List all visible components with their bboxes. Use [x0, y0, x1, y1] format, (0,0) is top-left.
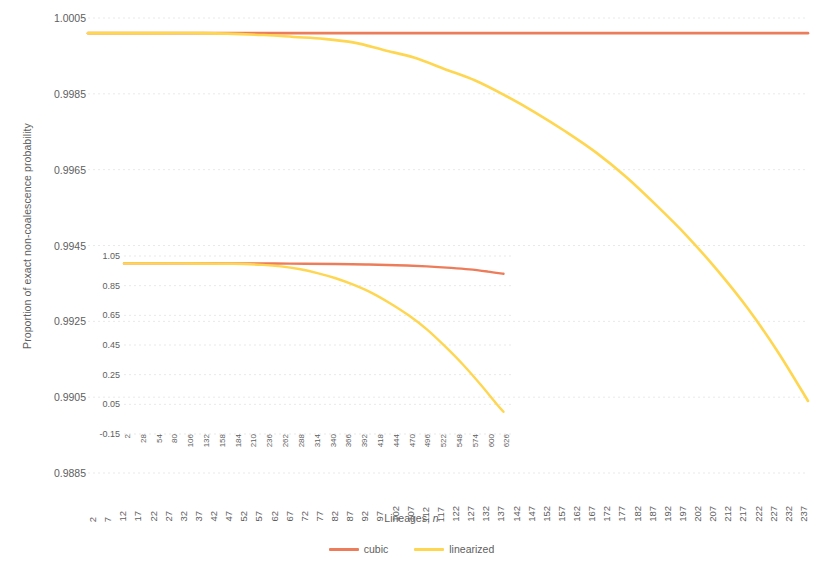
y-axis-tick-label: 0.9905 [30, 391, 86, 403]
inset-x-axis-tick-label: 392 [361, 434, 369, 447]
inset-x-axis-tick-label: 106 [187, 434, 195, 447]
inset-x-axis-tick-label: 262 [282, 434, 290, 447]
inset-y-axis-tick-label: 0.85 [86, 281, 120, 291]
inset-x-axis-tick-label: 548 [456, 434, 464, 447]
inset-y-axis-tick-label: 1.05 [86, 251, 120, 261]
legend-swatch-icon [329, 548, 359, 551]
y-axis-tick-label: 0.9965 [30, 164, 86, 176]
inset-x-axis-tick-label: 28 [140, 434, 148, 443]
inset-x-axis-tick-label: 340 [330, 434, 338, 447]
inset-x-axis-tick-label: 132 [203, 434, 211, 447]
inset-x-axis-tick-label: 80 [171, 434, 179, 443]
inset-y-axis-tick-label: 0.45 [86, 340, 120, 350]
inset-x-axis-tick-label: 366 [345, 434, 353, 447]
inset-y-axis-tick-label: 0.25 [86, 370, 120, 380]
y-axis-tick-label: 0.9885 [30, 467, 86, 479]
inset-x-axis-tick-label: 236 [266, 434, 274, 447]
inset-x-axis-tick-labels: 2285480106132158184210236262288314340366… [124, 434, 512, 467]
inset-x-axis-tick-label: 522 [440, 434, 448, 447]
inset-x-axis-tick-label: 600 [488, 434, 496, 447]
inset-x-axis-tick-label: 496 [424, 434, 432, 447]
inset-x-axis-tick-label: 184 [235, 434, 243, 447]
legend-label: linearized [449, 543, 494, 555]
inset-chart: 1.050.850.650.450.250.05-0.15 2285480106… [86, 252, 514, 467]
chart-legend: cubiclinearized [0, 543, 823, 555]
legend-label: cubic [364, 543, 389, 555]
inset-x-axis-tick-label: 314 [314, 434, 322, 447]
y-axis-tick-label: 0.9945 [30, 240, 86, 252]
inset-y-axis-tick-label: 0.05 [86, 399, 120, 409]
chart-figure: Proportion of exact non-coalescence prob… [0, 0, 823, 569]
legend-item-linearized[interactable]: linearized [414, 543, 494, 555]
legend-item-cubic[interactable]: cubic [329, 543, 389, 555]
inset-x-axis-tick-label: 444 [393, 434, 401, 447]
inset-x-axis-tick-label: 2 [124, 434, 132, 438]
inset-x-axis-tick-label: 418 [377, 434, 385, 447]
inset-x-axis-tick-label: 288 [298, 434, 306, 447]
y-axis-tick-labels: 1.00050.99850.99650.99450.99250.99050.98… [30, 0, 86, 569]
inset-x-axis-tick-label: 626 [503, 434, 511, 447]
inset-x-axis-tick-label: 574 [472, 434, 480, 447]
y-axis-tick-label: 1.0005 [30, 12, 86, 24]
inset-y-axis-tick-label: 0.65 [86, 310, 120, 320]
y-axis-tick-label: 0.9985 [30, 88, 86, 100]
x-axis-title-text: Lineages, [384, 512, 430, 524]
inset-plot-area [124, 256, 512, 434]
inset-y-axis-tick-label: -0.15 [86, 429, 120, 439]
x-axis-title-variable: n [433, 512, 439, 524]
inset-y-axis-tick-labels: 1.050.850.650.450.250.05-0.15 [86, 252, 120, 438]
inset-plot-svg [124, 256, 512, 434]
y-axis-tick-label: 0.9925 [30, 315, 86, 327]
inset-x-axis-tick-label: 54 [156, 434, 164, 443]
inset-x-axis-tick-label: 470 [409, 434, 417, 447]
inset-x-axis-tick-label: 210 [250, 434, 258, 447]
legend-swatch-icon [414, 548, 444, 551]
inset-x-axis-tick-label: 158 [219, 434, 227, 447]
x-axis-title: Lineages, n [0, 512, 823, 524]
